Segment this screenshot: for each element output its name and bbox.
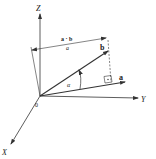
projection-numerator: a · b <box>61 36 73 42</box>
y-axis <box>40 96 138 98</box>
vector-a <box>40 82 125 96</box>
origin-label: 0 <box>35 102 38 108</box>
x-axis-label: X <box>1 148 8 157</box>
vector-a-label: a <box>119 73 123 82</box>
angle-label: α <box>67 82 71 88</box>
vector-projection-diagram: Z Y X 0 b a α a · b a <box>0 0 156 159</box>
z-axis-label: Z <box>36 4 41 13</box>
vector-b <box>40 51 108 96</box>
vector-b-label: b <box>100 43 105 52</box>
extension-line <box>31 47 40 96</box>
angle-arc <box>79 70 81 89</box>
projection-denominator: a <box>66 45 69 51</box>
y-axis-label: Y <box>141 95 147 104</box>
